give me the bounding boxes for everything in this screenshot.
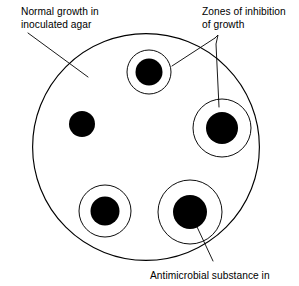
label-zones-line1: Zones of inhibition xyxy=(202,6,286,17)
antimicrobial-disc-right xyxy=(206,112,238,144)
disc-bottom-left xyxy=(79,185,131,237)
label-zones-line2: of growth xyxy=(202,19,244,30)
label-normal-growth-line2: inoculated agar xyxy=(21,19,92,30)
petri-dish-diagram: Normal growth in inoculated agar Zones o… xyxy=(0,0,299,286)
diagram-page: Normal growth in inoculated agar Zones o… xyxy=(0,0,299,286)
disc-bottom-right xyxy=(158,180,222,244)
antimicrobial-disc-top xyxy=(136,59,163,86)
label-normal-growth-line1: Normal growth in xyxy=(21,6,99,17)
disc-top xyxy=(127,50,171,94)
label-antimicrobial-line1: Antimicrobial substance in xyxy=(150,270,270,281)
antimicrobial-disc-bottom-left xyxy=(91,197,120,226)
antimicrobial-disc-bottom-right xyxy=(173,195,207,229)
disc-left xyxy=(69,111,95,137)
antimicrobial-disc-left-no-zone xyxy=(69,111,95,137)
disc-right xyxy=(193,99,251,157)
